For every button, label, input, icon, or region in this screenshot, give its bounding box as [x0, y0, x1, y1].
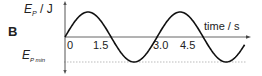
y-axis-arrow-down — [63, 70, 66, 74]
x-axis-arrow — [246, 35, 251, 38]
y-axis-arrow-up — [63, 1, 66, 5]
chart-plot — [0, 0, 262, 76]
